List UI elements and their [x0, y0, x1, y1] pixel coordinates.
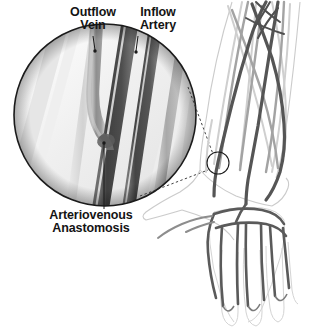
label-outflow-vein: Outflow Vein [60, 6, 126, 32]
arteriovenous-fistula-diagram [0, 0, 319, 330]
inflow-artery-leader-dot [134, 50, 137, 53]
wrist-outline [200, 170, 272, 206]
anastomosis-leader-dot [102, 141, 105, 144]
digital-vessel [246, 224, 248, 306]
inset-vignette [14, 24, 196, 206]
finger-outline [288, 242, 298, 304]
label-inflow-artery: Inflow Artery [126, 6, 190, 32]
digital-vessel [221, 226, 223, 306]
thumb-vessels [158, 216, 214, 238]
outflow-vein-leader-dot [93, 49, 96, 52]
deep-palmar-arch [216, 223, 286, 236]
magnifier-inset [10, 16, 205, 214]
wrist-to-arch [236, 204, 246, 222]
digital-vessel [237, 224, 238, 304]
label-arteriovenous-anastomosis: Arteriovenous Anastomosis [18, 209, 164, 235]
digital-loops [223, 294, 287, 311]
